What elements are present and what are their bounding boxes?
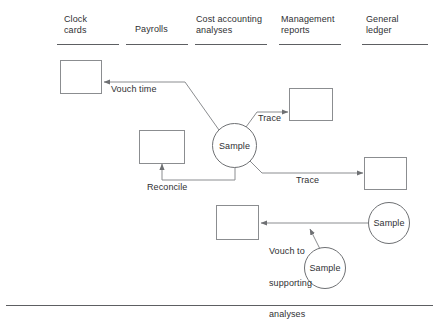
box-management-reports (289, 88, 333, 121)
label-vouch-supporting-line2: supporting (269, 278, 312, 289)
arrow-reconcile (162, 164, 235, 180)
label-vouch-time: Vouch time (111, 84, 157, 95)
node-sample-center-label: Sample (219, 141, 250, 151)
node-sample-bottom-label: Sample (309, 263, 340, 273)
box-cost-accounting (216, 205, 259, 240)
box-general-ledger (364, 157, 407, 190)
node-sample-center: Sample (212, 123, 257, 168)
arrow-trace-lower (249, 160, 363, 173)
node-sample-right-label: Sample (373, 218, 404, 228)
box-payrolls (139, 130, 185, 164)
label-reconcile: Reconcile (147, 182, 187, 193)
label-trace-lower: Trace (296, 175, 319, 186)
label-vouch-supporting: Vouch to supporting analyses (269, 225, 312, 323)
footer-divider (6, 305, 433, 306)
label-trace-upper: Trace (258, 113, 281, 124)
node-sample-right: Sample (368, 202, 410, 244)
label-vouch-supporting-line1: Vouch to (269, 246, 312, 257)
box-clock-cards (60, 60, 102, 94)
label-vouch-supporting-line3: analyses (269, 309, 312, 320)
